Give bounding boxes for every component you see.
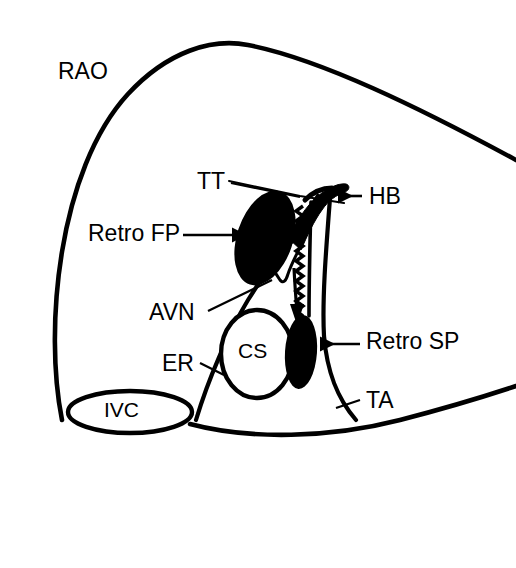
- slow-pathway-band-edge: [309, 202, 311, 316]
- label-retro-fp: Retro FP: [88, 222, 180, 245]
- label-er: ER: [162, 352, 194, 375]
- tricuspid-annulus-line: [323, 198, 356, 420]
- anatomical-diagram-canvas: [0, 0, 516, 568]
- figure-root: RAO TT HB Retro FP AVN ER CS Retro SP TA…: [0, 0, 516, 568]
- label-cs: CS: [238, 340, 267, 361]
- label-rao: RAO: [58, 60, 108, 83]
- label-ta: TA: [366, 389, 394, 412]
- label-tt: TT: [197, 170, 225, 193]
- label-avn: AVN: [149, 301, 195, 324]
- avn-leader-line: [208, 280, 272, 311]
- label-ivc: IVC: [104, 399, 139, 420]
- label-hb: HB: [369, 185, 401, 208]
- label-retro-sp: Retro SP: [366, 330, 459, 353]
